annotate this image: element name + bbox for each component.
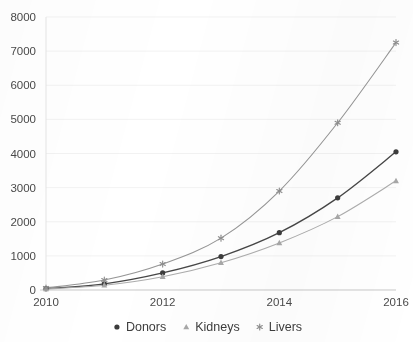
x-tick-label-2014: 2014	[267, 296, 293, 308]
y-axis-tick-labels: 010002000300040005000600070008000	[10, 11, 36, 296]
y-tick-label-5000: 5000	[10, 113, 36, 125]
x-tick-label-2012: 2012	[150, 296, 176, 308]
data-point-donors-2015	[335, 195, 340, 200]
y-tick-label-1000: 1000	[10, 250, 36, 262]
data-point-donors-2016	[393, 149, 398, 154]
y-tick-label-0: 0	[30, 284, 36, 296]
y-tick-label-2000: 2000	[10, 216, 36, 228]
y-tick-label-3000: 3000	[10, 182, 36, 194]
chart-legend: DonorsKidneysLivers	[114, 320, 302, 334]
legend-label-kidneys: Kidneys	[195, 320, 239, 334]
legend-label-donors: Donors	[126, 320, 166, 334]
x-tick-label-2010: 2010	[33, 296, 59, 308]
legend-marker-circle-icon	[114, 324, 119, 329]
legend-label-livers: Livers	[269, 320, 302, 334]
data-point-donors-2014	[277, 230, 282, 235]
y-tick-label-4000: 4000	[10, 148, 36, 160]
x-tick-label-2016: 2016	[383, 296, 409, 308]
y-tick-label-6000: 6000	[10, 79, 36, 91]
y-tick-label-8000: 8000	[10, 11, 36, 23]
line-chart: 010002000300040005000600070008000 201020…	[0, 0, 413, 342]
data-point-donors-2013	[218, 254, 223, 259]
y-tick-label-7000: 7000	[10, 45, 36, 57]
chart-canvas: 010002000300040005000600070008000 201020…	[0, 0, 413, 342]
